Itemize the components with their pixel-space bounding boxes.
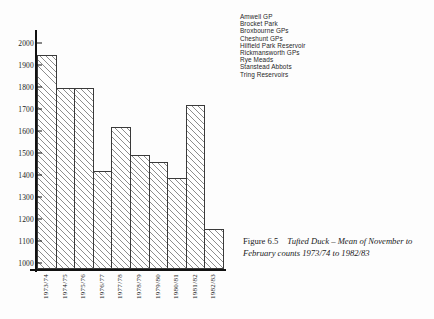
legend-item: Rickmansworth GPs	[240, 49, 430, 56]
legend-item: Brocket Park	[240, 20, 430, 27]
legend-item: Tring Reservoirs	[240, 71, 430, 78]
legend-item: Broxbourne GPs	[240, 27, 430, 34]
x-tick-label: 1981/82	[191, 274, 199, 299]
y-tick-mark	[37, 175, 42, 176]
y-tick-label: 1200	[18, 215, 34, 224]
y-tick-label: 1900	[18, 61, 34, 70]
x-axis-labels: 1973/741974/751975/761976/771977/781978/…	[37, 0, 227, 319]
y-tick-label: 1600	[18, 127, 34, 136]
x-tick-label: 1975/76	[79, 274, 87, 299]
figure-caption: Figure 6.5Tufted Duck – Mean of November…	[243, 236, 431, 259]
x-tick-label: 1979/80	[154, 274, 162, 299]
y-tick-mark	[37, 219, 42, 220]
y-tick-mark	[37, 241, 42, 242]
y-tick-mark	[37, 43, 42, 44]
y-tick-mark	[37, 197, 42, 198]
y-tick-mark	[37, 109, 42, 110]
y-axis-ticks: 1000110012001300140015001600170018001900…	[0, 0, 34, 319]
y-tick-label: 1800	[18, 83, 34, 92]
x-tick-label: 1978/79	[135, 274, 143, 299]
legend-item: Cheshunt GPs	[240, 35, 430, 42]
legend-item: Rye Meads	[240, 56, 430, 63]
legend-item: Stanstead Abbots	[240, 63, 430, 70]
legend: Amwell GPBrocket ParkBroxbourne GPsChesh…	[240, 13, 430, 78]
x-tick-label: 1980/81	[172, 274, 180, 299]
x-tick-label: 1977/78	[116, 274, 124, 299]
y-tick-label: 1400	[18, 171, 34, 180]
y-tick-mark	[37, 153, 42, 154]
y-tick-label: 1700	[18, 105, 34, 114]
x-tick-label: 1976/77	[98, 274, 106, 299]
y-tick-mark	[37, 131, 42, 132]
x-tick-label: 1973/74	[42, 274, 50, 299]
figure-page: 1000110012001300140015001600170018001900…	[0, 0, 434, 319]
y-tick-label: 1100	[18, 237, 34, 246]
bar-chart: 1000110012001300140015001600170018001900…	[0, 0, 240, 319]
legend-item: Hilfield Park Reservoir	[240, 42, 430, 49]
x-tick-label: 1982/83	[209, 274, 217, 299]
x-tick-label: 1974/75	[61, 274, 69, 299]
caption-figure-number: Figure 6.5	[243, 236, 278, 246]
y-tick-label: 2000	[18, 39, 34, 48]
y-tick-mark	[37, 65, 42, 66]
legend-item: Amwell GP	[240, 13, 430, 20]
y-tick-label: 1500	[18, 149, 34, 158]
y-tick-label: 1000	[18, 259, 34, 268]
y-tick-mark	[37, 263, 42, 264]
y-tick-mark	[37, 87, 42, 88]
y-tick-label: 1300	[18, 193, 34, 202]
